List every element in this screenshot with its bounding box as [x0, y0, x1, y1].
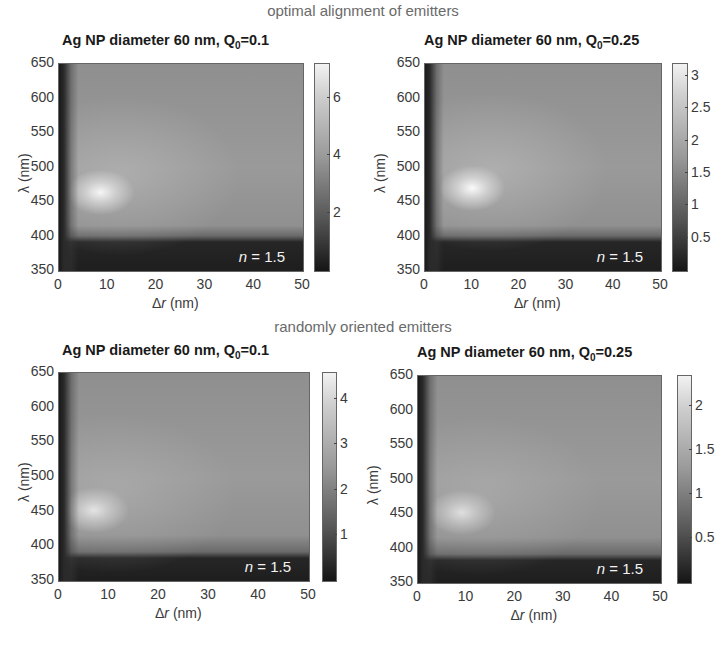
y-tick-label: 550 — [20, 123, 54, 139]
colorbar-tick-label: 4 — [333, 146, 341, 162]
colorbar-tick-label: 0.5 — [695, 529, 714, 545]
x-axis-label-delta: Δ — [155, 605, 164, 621]
y-tick-label: 650 — [20, 363, 54, 379]
x-tick-label: 30 — [193, 586, 223, 602]
y-tick-label: 600 — [379, 401, 413, 417]
colorbar-tick-label: 1 — [340, 526, 348, 542]
colorbar-tick-label: 2 — [333, 204, 341, 220]
panel-title-tail: =0.1 — [241, 342, 270, 358]
refractive-index-label: n = 1.5 — [245, 558, 291, 575]
y-tick-label: 500 — [386, 158, 420, 174]
y-axis-label: λ (nm) — [16, 153, 32, 193]
x-tick-label: 0 — [402, 588, 432, 604]
panel-title-main: Ag NP diameter 60 nm, Q — [424, 32, 597, 48]
colorbar-tick-label: 0.5 — [691, 229, 710, 245]
panel-title-main: Ag NP diameter 60 nm, Q — [62, 32, 235, 48]
colorbar-tick-label: 3 — [691, 67, 699, 83]
x-axis-label-unit: (nm) — [528, 295, 561, 311]
section-title-optimal: optimal alignment of emitters — [0, 2, 726, 19]
y-tick-label: 550 — [20, 432, 54, 448]
panel-title: Ag NP diameter 60 nm, Q0=0.1 — [62, 342, 269, 361]
x-tick-label: 30 — [189, 276, 219, 292]
heatmap-dark-edge — [59, 373, 309, 581]
y-tick-label: 450 — [379, 504, 413, 520]
heatmap-plot-area: n = 1.5 — [417, 375, 662, 584]
y-tick-label: 500 — [379, 470, 413, 486]
refractive-index-value: = 1.5 — [605, 248, 643, 265]
colorbar-tick-label: 1 — [695, 485, 703, 501]
x-tick-label: 20 — [499, 588, 529, 604]
y-axis-label: λ (nm) — [372, 153, 388, 193]
refractive-index-label: n = 1.5 — [597, 248, 643, 265]
heatmap-dark-edge — [425, 64, 661, 271]
y-tick-label: 450 — [386, 192, 420, 208]
x-tick-label: 10 — [92, 276, 122, 292]
x-tick-label: 20 — [141, 276, 171, 292]
colorbar-tick-label: 2 — [695, 397, 703, 413]
refractive-index-label: n = 1.5 — [597, 560, 643, 577]
colorbar-tick-label: 4 — [340, 390, 348, 406]
heatmap-plot-area: n = 1.5 — [58, 63, 304, 272]
heatmap-dark-edge — [418, 376, 661, 583]
y-tick-label: 600 — [386, 89, 420, 105]
y-tick-label: 600 — [20, 398, 54, 414]
x-tick-label: 10 — [93, 586, 123, 602]
heatmap-plot-area: n = 1.5 — [424, 63, 662, 272]
colorbar-tick-label: 6 — [333, 89, 341, 105]
panel-title: Ag NP diameter 60 nm, Q0=0.25 — [417, 344, 632, 363]
x-axis-label: Δr (nm) — [514, 295, 561, 311]
panel-title-tail: =0.25 — [596, 344, 633, 360]
y-tick-label: 400 — [20, 227, 54, 243]
x-axis-label: Δr (nm) — [155, 605, 202, 621]
refractive-index-symbol: n — [245, 558, 253, 575]
x-tick-label: 30 — [548, 588, 578, 604]
colorbar-tick-label: 2.5 — [691, 99, 710, 115]
heatmap-plot-area: n = 1.5 — [58, 372, 310, 582]
x-tick-label: 50 — [645, 276, 675, 292]
x-tick-label: 50 — [287, 276, 317, 292]
x-axis-label-delta: Δ — [511, 607, 520, 623]
colorbar — [322, 372, 337, 582]
x-tick-label: 40 — [598, 276, 628, 292]
colorbar — [677, 375, 692, 584]
section-title-random: randomly oriented emitters — [0, 318, 726, 335]
y-tick-label: 350 — [20, 261, 54, 277]
y-tick-label: 450 — [20, 192, 54, 208]
panel-title-tail: =0.1 — [241, 32, 270, 48]
y-tick-label: 350 — [386, 261, 420, 277]
colorbar-tick-label: 2 — [340, 481, 348, 497]
colorbar-tick-label: 1.5 — [695, 441, 714, 457]
x-tick-label: 0 — [409, 276, 439, 292]
x-axis-label-unit: (nm) — [525, 607, 558, 623]
refractive-index-symbol: n — [597, 248, 605, 265]
y-tick-label: 550 — [379, 435, 413, 451]
x-axis-label-unit: (nm) — [169, 605, 202, 621]
x-axis-label-delta: Δ — [152, 295, 161, 311]
y-tick-label: 650 — [386, 54, 420, 70]
x-tick-label: 50 — [293, 586, 323, 602]
y-tick-label: 550 — [386, 123, 420, 139]
heatmap-dark-edge — [59, 64, 303, 271]
y-tick-label: 650 — [20, 54, 54, 70]
x-tick-label: 20 — [503, 276, 533, 292]
y-tick-label: 450 — [20, 502, 54, 518]
panel-title: Ag NP diameter 60 nm, Q0=0.25 — [424, 32, 639, 51]
x-tick-label: 10 — [456, 276, 486, 292]
y-axis-label: λ (nm) — [365, 465, 381, 505]
x-tick-label: 40 — [243, 586, 273, 602]
x-tick-label: 20 — [143, 586, 173, 602]
refractive-index-label: n = 1.5 — [239, 248, 285, 265]
x-axis-label: Δr (nm) — [152, 295, 199, 311]
refractive-index-value: = 1.5 — [253, 558, 291, 575]
refractive-index-symbol: n — [597, 560, 605, 577]
y-tick-label: 350 — [20, 571, 54, 587]
refractive-index-symbol: n — [239, 248, 247, 265]
x-tick-label: 0 — [43, 586, 73, 602]
colorbar-tick-label: 1 — [691, 196, 699, 212]
x-tick-label: 30 — [551, 276, 581, 292]
y-tick-label: 400 — [20, 536, 54, 552]
colorbar-tick-label: 1.5 — [691, 164, 710, 180]
panel-title: Ag NP diameter 60 nm, Q0=0.1 — [62, 32, 269, 51]
colorbar-tick-label: 3 — [340, 435, 348, 451]
x-tick-label: 40 — [596, 588, 626, 604]
